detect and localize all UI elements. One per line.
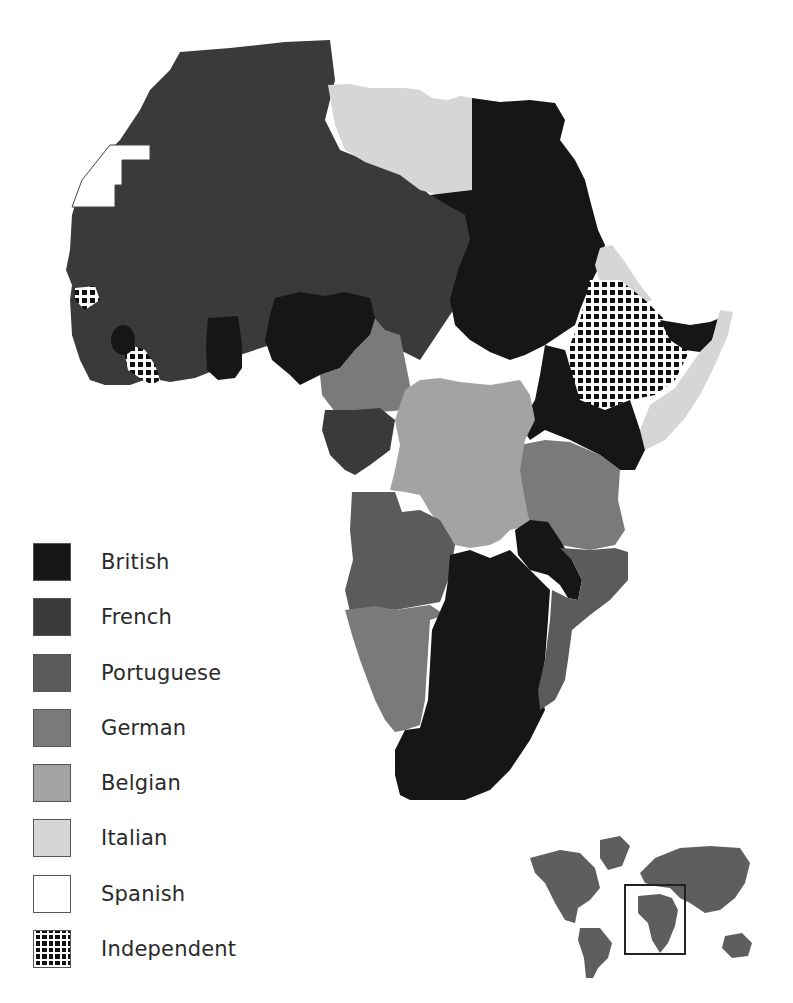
legend-label: Portuguese bbox=[101, 661, 221, 685]
inset-north-america bbox=[530, 850, 600, 923]
swatch-belgian bbox=[33, 764, 71, 802]
legend-item-british: British bbox=[33, 546, 236, 578]
legend-item-italian: Italian bbox=[33, 822, 236, 854]
region-gold-coast bbox=[206, 316, 242, 380]
legend-item-spanish: Spanish bbox=[33, 878, 236, 910]
inset-south-america bbox=[578, 928, 612, 978]
region-french-equatorial-lower bbox=[322, 408, 395, 475]
swatch-italian bbox=[33, 819, 71, 857]
swatch-german bbox=[33, 709, 71, 747]
region-sierra-leone bbox=[111, 325, 135, 355]
legend-label: Italian bbox=[101, 826, 168, 850]
legend-item-independent: Independent bbox=[33, 933, 236, 965]
legend-item-portuguese: Portuguese bbox=[33, 657, 236, 689]
legend-label: British bbox=[101, 550, 170, 574]
legend-label: Belgian bbox=[101, 771, 181, 795]
inset-australia bbox=[722, 933, 752, 958]
legend: British French Portuguese German Belgian… bbox=[33, 546, 236, 988]
legend-label: Spanish bbox=[101, 882, 185, 906]
swatch-portuguese bbox=[33, 654, 71, 692]
legend-item-belgian: Belgian bbox=[33, 767, 236, 799]
swatch-french bbox=[33, 598, 71, 636]
world-inset-map bbox=[520, 828, 770, 978]
swatch-independent bbox=[33, 930, 71, 968]
swatch-british bbox=[33, 543, 71, 581]
legend-label: Independent bbox=[101, 937, 236, 961]
legend-item-french: French bbox=[33, 601, 236, 633]
swatch-spanish bbox=[33, 875, 71, 913]
inset-africa bbox=[638, 894, 678, 953]
inset-greenland bbox=[600, 836, 630, 870]
legend-label: German bbox=[101, 716, 186, 740]
legend-item-german: German bbox=[33, 712, 236, 744]
legend-label: French bbox=[101, 605, 172, 629]
